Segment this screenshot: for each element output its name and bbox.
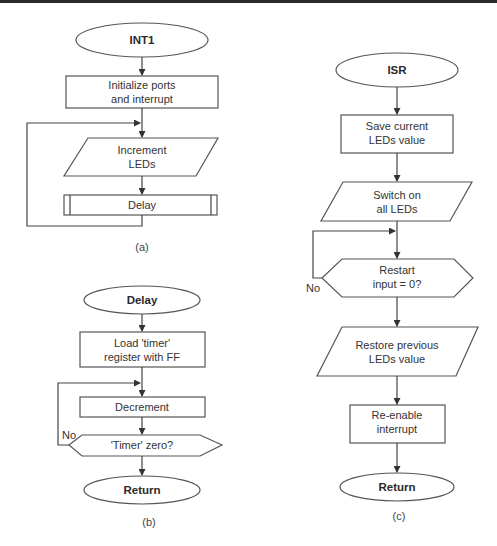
- io-restore-line1: Restore previous: [355, 339, 439, 351]
- no-label-b: No: [62, 429, 76, 441]
- process-save-line1: Save current: [366, 120, 428, 132]
- decision-restart-line1: Restart: [379, 264, 414, 276]
- process-reenable-line1: Re-enable: [372, 409, 423, 421]
- terminal-int1-label: INT1: [130, 34, 156, 46]
- process-init-line1: Initialize ports: [108, 79, 176, 91]
- process-load-line1: Load 'timer': [114, 337, 170, 349]
- no-label-c: No: [306, 282, 320, 294]
- process-save-line2: LEDs value: [369, 134, 425, 146]
- flowchart-c: ISR Save current LEDs value Switch on al…: [306, 53, 478, 522]
- terminal-isr-label: ISR: [387, 64, 407, 76]
- io-restore-line2: LEDs value: [369, 353, 425, 365]
- flowchart-canvas: INT1 Initialize ports and interrupt Incr…: [0, 0, 497, 546]
- io-increment-line1: Increment: [118, 144, 167, 156]
- process-decrement-label: Decrement: [115, 401, 169, 413]
- io-switch-line2: all LEDs: [377, 203, 418, 215]
- io-switch-on-leds: [321, 182, 472, 221]
- process-reenable-line2: interrupt: [377, 423, 417, 435]
- process-load-line2: register with FF: [104, 351, 180, 363]
- io-increment-line2: LEDs: [129, 158, 156, 170]
- subroutine-delay-label: Delay: [128, 199, 157, 211]
- io-switch-line1: Switch on: [373, 189, 421, 201]
- flowchart-a: INT1 Initialize ports and interrupt Incr…: [27, 23, 218, 253]
- caption-b: (b): [142, 516, 155, 528]
- terminal-return-c-label: Return: [378, 481, 415, 493]
- terminal-delay-label: Delay: [127, 294, 158, 306]
- caption-c: (c): [393, 510, 406, 522]
- terminal-return-b-label: Return: [123, 484, 160, 496]
- io-restore-leds: [317, 327, 478, 376]
- flowchart-b: Delay Load 'timer' register with FF Decr…: [58, 286, 222, 528]
- process-init-line2: and interrupt: [111, 93, 173, 105]
- caption-a: (a): [135, 241, 148, 253]
- decision-restart-line2: input = 0?: [373, 278, 422, 290]
- decision-timer-zero-label: 'Timer' zero?: [111, 439, 173, 451]
